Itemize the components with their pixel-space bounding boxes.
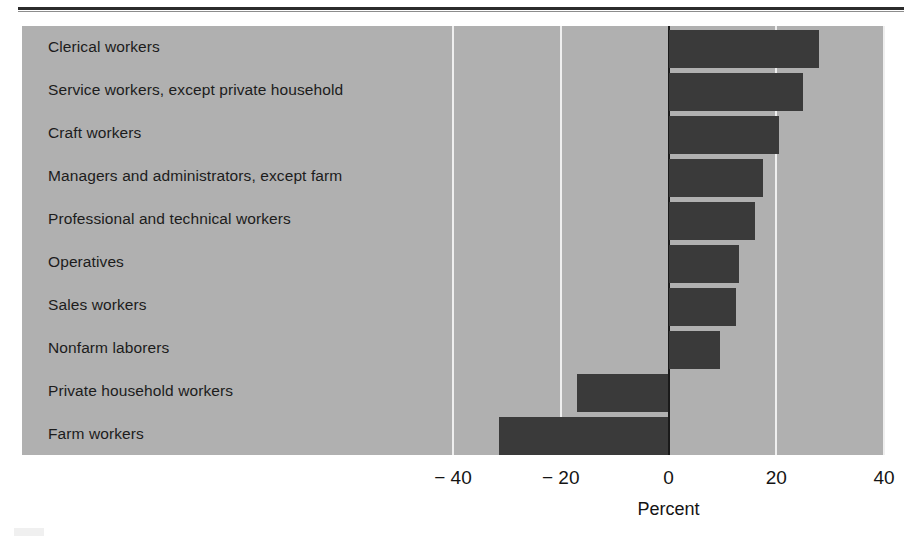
x-tick-label: − 20 [542,467,580,489]
bar [669,30,819,68]
gridline [452,26,454,455]
bar [577,374,669,412]
x-tick-label: 0 [663,467,674,489]
x-tick-label: − 40 [434,467,472,489]
category-label: Nonfarm laborers [48,340,169,356]
scan-artifact [14,528,44,536]
category-label: Managers and administrators, except farm [48,168,342,184]
bar [669,245,739,283]
plot-area [453,26,884,455]
category-label: Service workers, except private househol… [48,82,343,98]
bar [669,116,779,154]
category-label: Operatives [48,254,124,270]
page-rule-thin [18,11,904,12]
bar [669,202,755,240]
zero-tick-stub [668,447,670,455]
x-tick-label: 40 [873,467,894,489]
category-label-column: Clerical workersService workers, except … [48,26,452,455]
category-label: Professional and technical workers [48,211,291,227]
category-label: Private household workers [48,383,233,399]
gridline [883,26,885,455]
plot-panel: Clerical workersService workers, except … [22,26,884,455]
gridline [560,26,562,455]
bar [669,288,736,326]
bar [669,331,720,369]
category-label: Craft workers [48,125,141,141]
axis-title: Percent [637,499,699,520]
bar [669,73,804,111]
category-label: Farm workers [48,426,144,442]
category-label: Sales workers [48,297,147,313]
bar [499,417,669,455]
figure-chart: Clerical workersService workers, except … [0,0,922,539]
bar [669,159,763,197]
x-axis: − 40− 2002040Percent [22,455,884,539]
page-rule-thick [18,7,904,10]
x-tick-label: 20 [766,467,787,489]
category-label: Clerical workers [48,39,160,55]
